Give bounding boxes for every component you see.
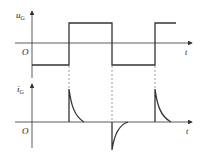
- square-wave: [32, 23, 176, 65]
- bottom-y-label: iG: [17, 84, 25, 95]
- positive-spike-1: [69, 89, 84, 122]
- bottom-plot-current: iG O t: [15, 84, 192, 150]
- bottom-origin-label: O: [22, 126, 29, 136]
- top-plot-voltage: uG O t: [15, 10, 192, 78]
- gate-drive-waveform-diagram: uG O t iG O t: [0, 0, 202, 161]
- positive-spike-2: [155, 89, 171, 122]
- negative-spike: [112, 122, 128, 150]
- top-t-label: t: [185, 48, 188, 57]
- bottom-t-label: t: [186, 127, 189, 136]
- dashed-guides: [69, 66, 155, 122]
- top-origin-label: O: [22, 47, 29, 57]
- top-y-label: uG: [16, 10, 26, 21]
